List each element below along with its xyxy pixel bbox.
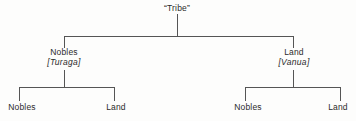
node-root-label: “Tribe” bbox=[164, 3, 190, 13]
leaf-right-nobles: Nobles bbox=[234, 102, 261, 112]
node-branch-nobles-alt-label: [Turaga] bbox=[47, 57, 80, 67]
node-branch-nobles-label: Nobles bbox=[47, 47, 80, 57]
node-branch-land: Land [Vanua] bbox=[278, 47, 309, 67]
leaf-left-nobles: Nobles bbox=[8, 102, 35, 112]
node-branch-nobles: Nobles [Turaga] bbox=[47, 47, 80, 67]
node-branch-land-label: Land bbox=[278, 47, 309, 57]
leaf-right-nobles-label: Nobles bbox=[234, 102, 261, 112]
leaf-right-land: Land bbox=[328, 102, 348, 112]
tree-diagram: “Tribe” Nobles [Turaga] Land [Vanua] Nob… bbox=[0, 0, 356, 121]
leaf-right-land-label: Land bbox=[328, 102, 348, 112]
leaf-left-land-label: Land bbox=[106, 102, 126, 112]
node-root: “Tribe” bbox=[164, 3, 190, 13]
leaf-left-land: Land bbox=[106, 102, 126, 112]
node-branch-land-alt-label: [Vanua] bbox=[278, 57, 309, 67]
leaf-left-nobles-label: Nobles bbox=[8, 102, 35, 112]
